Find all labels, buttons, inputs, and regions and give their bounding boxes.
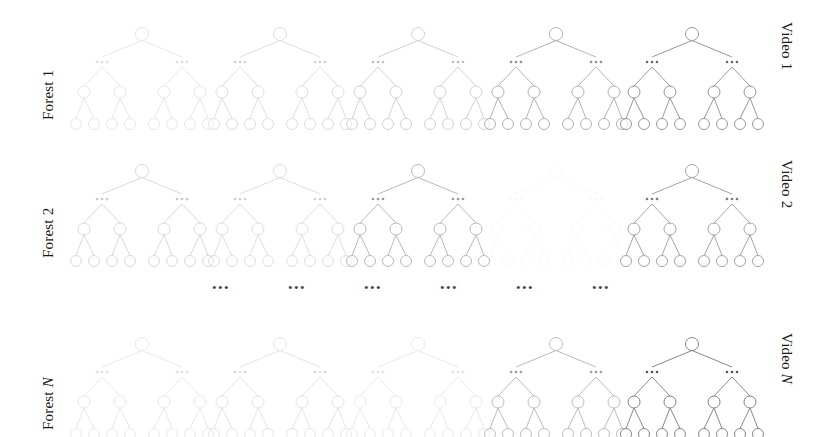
tree-leaf-node [657, 256, 668, 267]
tree-mid-node [434, 86, 446, 98]
tree-leaf-node [245, 119, 256, 130]
ellipsis-icon [726, 371, 739, 374]
tree-mid-node [354, 223, 366, 235]
forest-row-label: Forest N [40, 377, 57, 430]
tree-leaf-node [305, 429, 316, 437]
ellipsis-icon [590, 61, 603, 64]
tree-leaf-node [107, 256, 118, 267]
tree-leaf-node [185, 256, 196, 267]
tree-mid-node [470, 223, 482, 235]
tree-leaf-node [149, 256, 160, 267]
ellipsis-icon [96, 371, 109, 374]
tree-leaf-node [167, 119, 178, 130]
tree-leaf-node [125, 429, 136, 437]
tree-root-node [686, 165, 699, 178]
tree-leaf-node [209, 256, 220, 267]
forest-row [0, 145, 836, 279]
tree-mid-node [572, 86, 584, 98]
video-label-index: 1 [779, 63, 795, 71]
tree-root-node [412, 165, 425, 178]
tree-leaf-node [323, 256, 334, 267]
tree-leaf-node [675, 256, 686, 267]
tree-mid-node [252, 396, 264, 408]
ellipsis-icon [234, 371, 247, 374]
tree-edges [76, 178, 208, 256]
tree-leaf-node [753, 119, 764, 130]
tree-leaf-node [675, 119, 686, 130]
forest-label-index: 1 [40, 70, 56, 78]
ellipsis-icon [314, 198, 327, 201]
tree-root-node [274, 338, 287, 351]
tree-mid-node [744, 396, 756, 408]
ellipsis-icon [646, 61, 659, 64]
tree-leaf-node [717, 256, 728, 267]
tree-mid-node [390, 396, 402, 408]
tree-leaf-node [735, 256, 746, 267]
tree-mid-node [158, 223, 170, 235]
tree-leaf-node [639, 256, 650, 267]
video-label-prefix: Video [779, 160, 795, 201]
tree-mid-node [194, 396, 206, 408]
tree-leaf-node [71, 429, 82, 437]
tree-mid-node [78, 396, 90, 408]
tree-leaf-node [443, 256, 454, 267]
tree-leaf-node [461, 256, 472, 267]
tree-leaf-node [485, 119, 496, 130]
tree-mid-node [708, 86, 720, 98]
tree-mid-node [354, 396, 366, 408]
tree-leaf-node [347, 429, 358, 437]
ellipsis-icon: ••• [212, 281, 230, 294]
tree-edges [626, 351, 758, 429]
ellipsis-icon [510, 371, 523, 374]
tree-edges [626, 178, 758, 256]
tree-leaf-node [563, 256, 574, 267]
tree-mid-node [194, 223, 206, 235]
tree-leaf-node [425, 429, 436, 437]
tree-leaf-node [717, 429, 728, 437]
tree-root-node [686, 338, 699, 351]
ellipsis-icon [372, 61, 385, 64]
forest-video-diagram: Forest 1Video 1Forest 2Video 2Forest NVi… [0, 0, 836, 437]
tree-leaf-node [657, 119, 668, 130]
tree-leaf-node [639, 119, 650, 130]
tree-mid-node [492, 86, 504, 98]
tree-root-node [136, 165, 149, 178]
tree-leaf-node [461, 119, 472, 130]
tree-mid-node [470, 396, 482, 408]
tree-leaf-node [521, 429, 532, 437]
video-row-label: Video N [778, 333, 795, 384]
tree [208, 318, 358, 437]
tree [346, 8, 496, 142]
middle-ellipsis-row: •••••••••••••••••• [0, 281, 836, 311]
tree-mid-node [216, 223, 228, 235]
tree-leaf-node [699, 256, 710, 267]
tree-leaf-node [209, 119, 220, 130]
tree-leaf-node [581, 119, 592, 130]
tree [620, 8, 770, 142]
tree-mid-node [216, 396, 228, 408]
tree-edges [214, 41, 346, 119]
tree-leaf-node [149, 429, 160, 437]
tree-mid-node [608, 223, 620, 235]
tree-mid-node [78, 86, 90, 98]
tree-mid-node [744, 86, 756, 98]
tree-leaf-node [185, 119, 196, 130]
tree-leaf-node [503, 429, 514, 437]
tree-mid-node [114, 86, 126, 98]
tree-leaf-node [209, 429, 220, 437]
tree-leaf-node [461, 429, 472, 437]
ellipsis-icon [234, 61, 247, 64]
video-label-prefix: Video [779, 333, 795, 374]
tree-mid-node [296, 223, 308, 235]
ellipsis-icon [452, 371, 465, 374]
tree-leaf-node [125, 256, 136, 267]
tree [208, 145, 358, 279]
ellipsis-icon [510, 61, 523, 64]
tree-leaf-node [383, 429, 394, 437]
tree-leaf-node [503, 256, 514, 267]
tree-mid-node [628, 86, 640, 98]
tree-mid-node [390, 223, 402, 235]
tree-leaf-node [263, 429, 274, 437]
tree-edges [76, 351, 208, 429]
tree-leaf-node [71, 119, 82, 130]
